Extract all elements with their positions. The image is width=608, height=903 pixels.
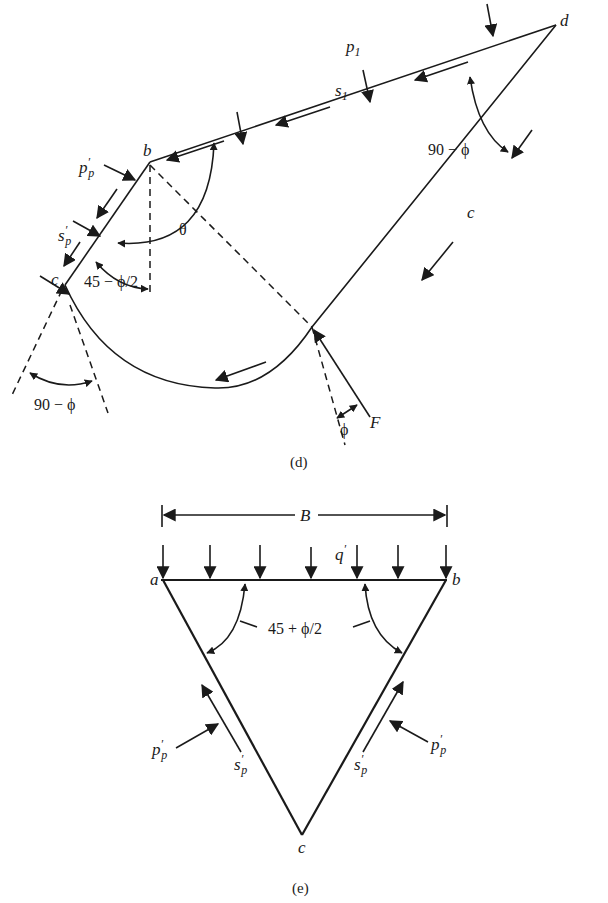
dashed-radial-b (150, 165, 312, 327)
angle-90-right-label: 90 − ϕ (428, 141, 469, 159)
dashed-extension-c (12, 290, 62, 395)
figure-d: b d c c p1 s1 p′p s′p θ 45 − ϕ/2 90 − ϕ … (12, 4, 569, 471)
normal-load-arrow (237, 112, 243, 144)
wall-normal-arrow (73, 221, 100, 236)
angle-arc-right (365, 584, 402, 653)
dimension-B-label: B (300, 506, 311, 525)
pp-wall-label: p′p (78, 155, 94, 180)
angle-arc-90-right (470, 77, 508, 152)
sp-wall-label: s′p (58, 223, 71, 248)
sp-right-label: s′p (354, 752, 367, 777)
surcharge-q-label: q′ (335, 542, 347, 564)
sp-left-label: s′p (234, 752, 247, 777)
caption-d: (d) (290, 454, 308, 471)
shear-arrow (415, 62, 468, 80)
angle-arc-90-left (30, 373, 92, 385)
failure-shear-arrow (512, 130, 532, 158)
angle-arc-left (207, 584, 245, 653)
figure-e: B 45 + ϕ/2 a b c q′ p′p s′p s′p p′p (150, 505, 461, 897)
pressure-arrow-right-pp (390, 721, 428, 742)
wedge-side-bc (302, 580, 446, 835)
point-c-left-label: c (51, 270, 59, 289)
resultant-F-arrow (314, 330, 370, 417)
point-b-label: b (452, 570, 461, 589)
pp-right-label: p′p (430, 732, 446, 757)
point-b-label: b (143, 141, 152, 160)
wall-normal-arrow-pp (104, 165, 135, 180)
p1-label: p1 (345, 37, 361, 59)
failure-shear-arrow (216, 362, 266, 380)
angle-90-left-label: 90 − ϕ (34, 396, 75, 414)
angle-45-label: 45 − ϕ/2 (84, 273, 138, 291)
shear-arrow (167, 141, 224, 160)
pressure-arrow-left-pp (176, 724, 218, 748)
point-c-curve-label: c (467, 203, 475, 222)
s1-label: s1 (335, 81, 348, 103)
failure-shear-arrow (422, 242, 453, 280)
shear-arrow-left-sp (202, 685, 241, 752)
caption-e: (e) (292, 880, 309, 897)
theta-angle-arc (118, 143, 214, 243)
angle-leader-right (353, 621, 370, 627)
theta-label: θ (179, 221, 187, 238)
normal-load-arrow (487, 4, 493, 36)
angle-leader-left (240, 621, 257, 627)
failure-surface (65, 25, 556, 388)
diagram-canvas: b d c c p1 s1 p′p s′p θ 45 − ϕ/2 90 − ϕ … (0, 0, 608, 903)
dashed-tangent-c (70, 305, 108, 413)
angle-label: 45 + ϕ/2 (268, 620, 322, 638)
pp-left-label: p′p (151, 737, 167, 762)
point-c-label: c (298, 838, 306, 857)
phi-label: ϕ (340, 421, 348, 439)
normal-load-arrow-p1 (363, 70, 370, 102)
F-label: F (369, 413, 381, 432)
point-d-label: d (560, 11, 569, 30)
wedge-side-ac (163, 580, 302, 835)
phi-angle-arc (337, 405, 357, 418)
point-a-label: a (150, 570, 159, 589)
